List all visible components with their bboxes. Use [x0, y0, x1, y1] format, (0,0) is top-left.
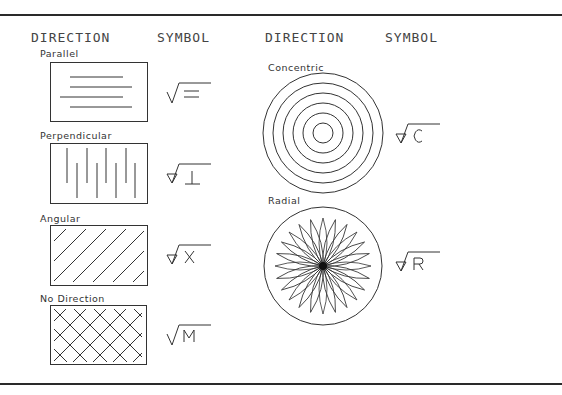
perpendicular-pattern-figure — [50, 143, 150, 205]
bottom-rule — [0, 383, 562, 385]
header-left-symbol: SYMBOL — [157, 30, 210, 45]
angular-pattern-figure — [50, 225, 150, 287]
radial-pattern-figure — [262, 205, 392, 335]
top-rule — [0, 14, 562, 16]
label-parallel: Parallel — [40, 48, 79, 59]
label-no-direction: No Direction — [40, 293, 105, 304]
symbol-concentric — [394, 122, 444, 152]
symbol-angular — [165, 243, 215, 273]
symbol-no-direction — [165, 322, 215, 352]
no-direction-pattern-figure — [50, 305, 150, 367]
parallel-pattern-figure — [50, 62, 150, 124]
label-angular: Angular — [40, 213, 80, 224]
symbol-parallel — [165, 80, 215, 110]
header-left-direction: DIRECTION — [31, 30, 110, 45]
label-perpendicular: Perpendicular — [40, 130, 112, 141]
symbol-perpendicular — [165, 162, 215, 192]
concentric-pattern-figure — [262, 72, 392, 202]
header-right-symbol: SYMBOL — [385, 30, 438, 45]
header-right-direction: DIRECTION — [265, 30, 344, 45]
symbol-radial — [394, 250, 444, 280]
